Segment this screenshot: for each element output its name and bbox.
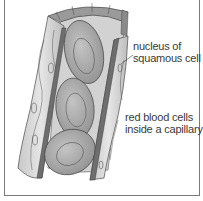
rbc-label-line1: red blood cells: [125, 111, 203, 123]
capillary-illustration: [0, 0, 203, 201]
nucleus-label: nucleus of squamous cell: [133, 40, 201, 64]
nucleus-label-line2: squamous cell: [133, 52, 201, 64]
rbc-label: red blood cells inside a capillary: [125, 111, 203, 135]
rbc-label-line2: inside a capillary: [125, 123, 203, 135]
nucleus-label-line1: nucleus of: [133, 40, 201, 52]
